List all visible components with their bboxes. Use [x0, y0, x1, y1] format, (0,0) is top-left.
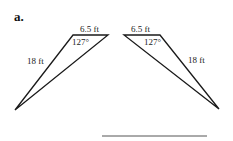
right-angle-label: 127° [144, 37, 162, 47]
diagram-canvas: a. 6.5 ft 127° 18 ft 6.5 ft 127° 18 ft [0, 0, 233, 141]
part-label: a. [14, 9, 24, 24]
triangle-left-shape [15, 35, 108, 110]
left-angle-label: 127° [72, 37, 90, 47]
triangle-right: 6.5 ft 127° 18 ft [124, 24, 219, 109]
right-top-side-label: 6.5 ft [131, 24, 150, 34]
left-top-side-label: 6.5 ft [80, 24, 99, 34]
triangle-right-shape [124, 35, 219, 109]
triangle-left: 6.5 ft 127° 18 ft [15, 24, 108, 110]
right-slant-side-label: 18 ft [188, 55, 205, 65]
left-slant-side-label: 18 ft [27, 56, 44, 66]
